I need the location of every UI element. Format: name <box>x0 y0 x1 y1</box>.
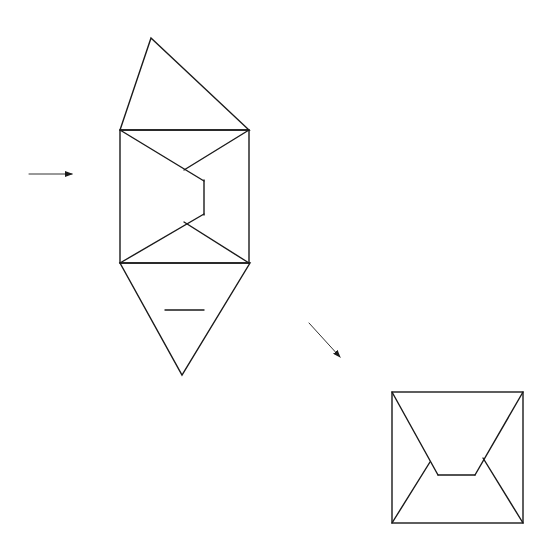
top-triangle <box>120 38 249 130</box>
net-square <box>120 130 249 263</box>
folded-inner-lines <box>392 392 523 523</box>
net-figure <box>120 38 250 375</box>
folded-view-figure <box>392 392 523 523</box>
diagram-canvas <box>0 0 552 559</box>
arrow-diagonal-icon <box>309 323 340 357</box>
bottom-triangle <box>120 263 250 375</box>
folded-square <box>392 392 523 523</box>
net-inner-lines <box>120 130 249 263</box>
